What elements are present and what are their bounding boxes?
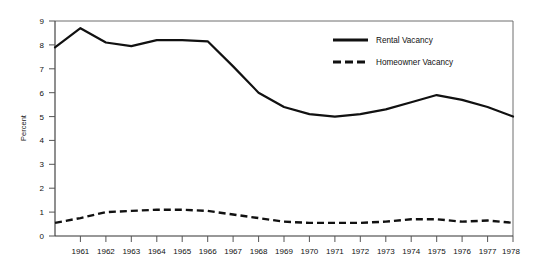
y-axis-title: Percent [19,114,28,141]
x-axis-ticks [80,236,513,242]
plot-frame [55,21,513,236]
legend-label-homeowner-vacancy: Homeowner Vacancy [376,58,454,67]
y-tick-label: 8 [40,41,45,50]
x-tick-label: 1972 [351,247,369,256]
y-tick-label: 6 [40,89,45,98]
x-axis-tick-labels: 1961 1962 1963 1964 1965 1966 1967 1968 … [72,247,521,256]
x-tick-label: 1965 [173,247,191,256]
y-tick-label: 0 [40,232,45,241]
x-tick-label: 1978 [502,247,520,256]
x-tick-label: 1967 [224,247,242,256]
x-tick-label: 1977 [479,247,497,256]
vacancy-rate-chart-figure: 0 1 2 3 4 5 6 7 8 9 Percent [0,0,548,270]
x-tick-label: 1961 [72,247,90,256]
x-tick-label: 1971 [326,247,344,256]
x-tick-label: 1974 [402,247,420,256]
x-tick-label: 1968 [250,247,268,256]
x-tick-label: 1963 [122,247,140,256]
rental-vacancy-line [55,28,513,116]
x-tick-label: 1969 [275,247,293,256]
y-tick-label: 5 [40,113,45,122]
y-tick-label: 4 [40,136,45,145]
x-tick-label: 1976 [453,247,471,256]
y-tick-label: 1 [40,208,45,217]
legend-label-rental-vacancy: Rental Vacancy [376,36,434,45]
y-tick-label: 7 [40,65,45,74]
homeowner-vacancy-line [55,210,513,223]
x-tick-label: 1966 [199,247,217,256]
y-tick-label: 3 [40,160,45,169]
x-tick-label: 1962 [97,247,115,256]
y-tick-label: 9 [40,17,45,26]
chart-canvas: 0 1 2 3 4 5 6 7 8 9 Percent [0,0,548,270]
y-axis-tick-labels: 0 1 2 3 4 5 6 7 8 9 [40,17,45,241]
x-tick-label: 1975 [428,247,446,256]
y-tick-label: 2 [40,184,45,193]
x-tick-label: 1964 [148,247,166,256]
x-tick-label: 1970 [301,247,319,256]
x-tick-label: 1973 [377,247,395,256]
chart-legend: Rental Vacancy Homeowner Vacancy [333,36,454,67]
y-axis-ticks [49,21,55,236]
